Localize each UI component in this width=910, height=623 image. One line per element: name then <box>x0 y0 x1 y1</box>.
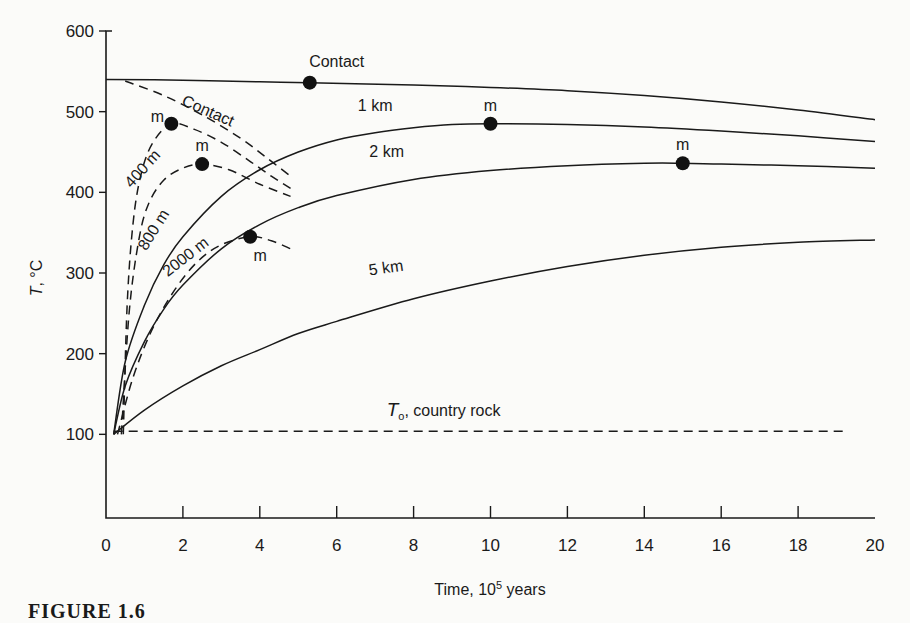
max-dot-2-km <box>676 156 690 170</box>
x-tick-label: 10 <box>481 536 500 555</box>
y-tick-label: 500 <box>66 103 94 122</box>
x-tick-label: 14 <box>635 536 654 555</box>
max-dot-400-m <box>164 117 178 131</box>
y-tick-label: 300 <box>66 264 94 283</box>
figure-caption: FIGURE 1.6 <box>28 600 146 623</box>
curve-label: 5 km <box>368 257 405 279</box>
curve-label: 2 km <box>369 143 404 160</box>
y-tick-label: 200 <box>66 345 94 364</box>
curve-2000-m <box>118 237 291 435</box>
max-dot-contact <box>303 76 317 90</box>
max-label-m: m <box>676 136 689 153</box>
max-label-m: m <box>195 137 208 154</box>
y-tick-label: 400 <box>66 183 94 202</box>
x-tick-label: 8 <box>409 536 418 555</box>
max-markers: mmmmm <box>151 76 690 264</box>
x-tick-label: 6 <box>332 536 341 555</box>
x-axis-label: Time, 105 years <box>434 579 545 598</box>
country-rock-label: To, country rock <box>387 399 502 422</box>
curve-label: 400 m <box>121 146 163 190</box>
max-dot-2000-m <box>243 230 257 244</box>
series-group <box>106 79 875 434</box>
x-tick-label: 12 <box>558 536 577 555</box>
curve-label: Contact <box>309 53 365 70</box>
x-tick-label: 16 <box>712 536 731 555</box>
y-tick-label: 100 <box>66 425 94 444</box>
max-dot-800-m <box>195 157 209 171</box>
x-tick-label: 18 <box>789 536 808 555</box>
y-axis-label: T, °C <box>28 260 45 297</box>
max-dot-1-km <box>484 117 498 131</box>
max-label-m: m <box>151 108 164 125</box>
curve-label: Contact <box>180 92 238 130</box>
x-tick-label: 0 <box>101 536 110 555</box>
curve-label: 1 km <box>358 97 393 114</box>
curve-label: 800 m <box>134 206 172 253</box>
x-tick-label: 2 <box>178 536 187 555</box>
max-label-m: m <box>484 97 497 114</box>
y-tick-label: 600 <box>66 22 94 41</box>
max-label-m: m <box>254 247 267 264</box>
curve-2-km <box>114 163 875 434</box>
chart: 10020030040050060002468101214161820Time,… <box>0 0 910 623</box>
x-tick-label: 20 <box>866 536 885 555</box>
x-tick-label: 4 <box>255 536 264 555</box>
